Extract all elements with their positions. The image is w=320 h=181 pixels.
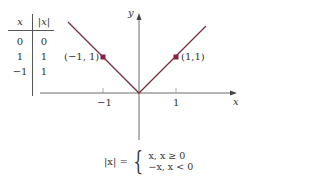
formula-case-1: x, x ≥ 0	[148, 150, 193, 161]
formula-cases: x, x ≥ 0 −x, x < 0	[148, 150, 193, 172]
abs-value-definition: |x| = { x, x ≥ 0 −x, x < 0	[104, 148, 193, 174]
tick-label-1: 1	[173, 97, 179, 108]
y-axis-arrow-icon	[137, 13, 142, 20]
x-axis-label: x	[233, 96, 239, 107]
brace-icon: {	[133, 148, 143, 174]
x-axis-arrow-icon	[230, 91, 237, 96]
tick-label-minus-1: −1	[97, 97, 112, 108]
point-neg1-1	[101, 55, 106, 60]
point-1-1	[174, 55, 179, 60]
y-axis-label: y	[128, 7, 134, 18]
point-label-1-1: (1,1)	[181, 51, 205, 62]
point-label-neg1-1: (−1, 1)	[64, 51, 99, 62]
formula-lhs: |x| =	[104, 156, 128, 167]
formula-case-2: −x, x < 0	[148, 161, 193, 172]
